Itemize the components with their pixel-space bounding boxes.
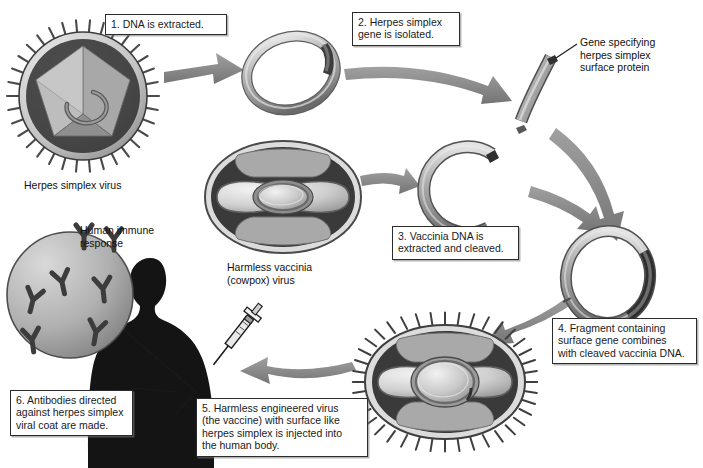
arrow-gene-to-recombinant <box>549 128 624 241</box>
step-2-caption: 2. Herpes simplex gene is isolated. <box>352 12 460 46</box>
arrow-virus-to-human <box>240 357 356 384</box>
label-herpes-simplex-virus: Herpes simplex virus <box>24 179 121 192</box>
lateral-body-bottom <box>235 217 330 245</box>
label-immune-response: Human immune response <box>80 224 154 249</box>
immune-response-circle <box>7 232 133 358</box>
virus-internal-dna <box>67 92 107 123</box>
arrow-cleaved-to-recombinant <box>528 186 604 232</box>
arrow-dna-to-gene <box>344 67 512 104</box>
vaccinia-core <box>217 182 349 213</box>
virus-envelope <box>19 32 147 160</box>
step-5-caption: 5. Harmless engineered virus (the vaccin… <box>196 398 368 457</box>
step-1-caption: 1. DNA is extracted. <box>105 14 227 35</box>
step-6-caption: 6. Antibodies directed against herpes si… <box>10 390 133 436</box>
virus-capsid <box>36 46 130 136</box>
label-vaccinia-virus: Harmless vaccinia (cowpox) virus <box>227 261 312 286</box>
lateral-body-top <box>235 149 330 177</box>
label-gene-callout: Gene specifying herpes simplex surface p… <box>580 36 655 74</box>
leader-lines <box>124 330 196 414</box>
vaccinia-membrane <box>205 141 361 253</box>
syringe <box>206 299 267 370</box>
engineered-virus-spikes <box>353 313 537 452</box>
step-4-caption: 4. Fragment containing surface gene comb… <box>552 318 697 364</box>
diagram-canvas: 1. DNA is extracted. 2. Herpes simplex g… <box>0 0 703 468</box>
inserted-gene-segment <box>629 251 654 319</box>
arrow-virus-to-dna <box>164 53 244 84</box>
virus-spikes <box>7 20 159 171</box>
step-3-caption: 3. Vaccinia DNA is extracted and cleaved… <box>392 226 519 260</box>
arrow-vaccinia-to-cleaved <box>360 168 420 194</box>
